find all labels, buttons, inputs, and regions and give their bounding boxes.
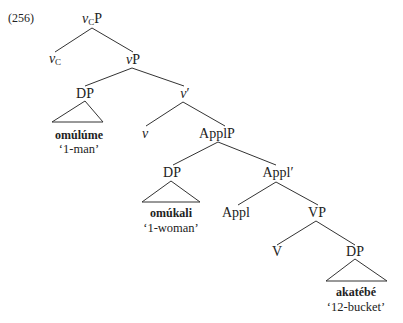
example-number: (256)	[8, 12, 34, 24]
node-dp-1: DP	[76, 87, 94, 101]
node-dp-3: DP	[346, 245, 364, 259]
leaf-word-akatebe: akatébé	[336, 285, 376, 299]
node-V: V	[272, 245, 282, 259]
node-appl-bar: Appl′	[262, 166, 293, 180]
node-v-bar: v′	[180, 87, 189, 101]
node-appl: Appl	[222, 206, 250, 220]
leaf-word-omukali: omúkali	[150, 206, 192, 220]
node-vc: vC	[49, 52, 61, 69]
node-applp: ApplP	[199, 127, 235, 141]
node-dp-2: DP	[163, 166, 181, 180]
node-vcp: vCP	[82, 12, 102, 29]
node-vp: VP	[308, 206, 326, 220]
leaf-gloss-1-man: ‘1-man’	[59, 142, 99, 156]
leaf-gloss-12-bucket: ‘12-bucket’	[327, 300, 385, 314]
leaf-gloss-1-woman: ‘1-woman’	[143, 221, 199, 235]
leaf-word-omulume: omúlúme	[55, 128, 103, 142]
node-v: v	[142, 127, 148, 141]
tree-branches	[0, 0, 403, 323]
node-vp-small: vP	[126, 53, 140, 67]
